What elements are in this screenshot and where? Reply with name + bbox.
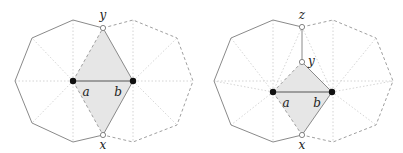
label-a: a [282,96,289,110]
label-x: x [299,138,306,152]
guide-spoke [214,81,273,92]
guide-spoke [332,81,393,92]
label-y: y [99,8,107,22]
vertex-x-open [299,132,304,137]
vertex-a-dot [70,78,76,84]
label-y: y [307,54,315,68]
label-x: x [100,138,107,152]
vertex-a-dot [270,89,276,95]
label-a: a [82,85,89,99]
guide-spoke [32,38,73,81]
right-panel: z y x a b [214,8,393,152]
diagram-canvas: y x a b z y [0,0,403,153]
vertex-y-open [299,59,304,64]
vertex-z-open [299,24,304,29]
guide-spoke [332,38,376,92]
guide-spoke [133,38,177,81]
label-b: b [313,96,321,110]
vertex-x-open [100,132,105,137]
guide-spoke [231,38,273,92]
label-z: z [298,8,306,22]
left-panel: y x a b [15,8,193,152]
guide-spoke [231,92,273,125]
guide-spoke [332,92,376,125]
guide-spoke [32,81,73,123]
vertex-b-dot [329,89,335,95]
guide-spoke [133,81,177,125]
vertex-y-open [100,25,105,30]
vertex-b-dot [130,78,136,84]
label-b: b [114,85,122,99]
